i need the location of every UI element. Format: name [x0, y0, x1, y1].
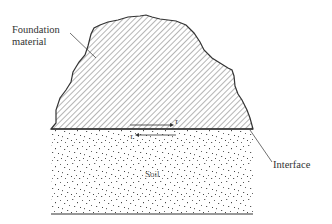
foundation-material-label: Foundation material [12, 24, 60, 48]
shear-stress-label-bottom: τ [130, 132, 133, 141]
interface-leader-line [250, 130, 272, 162]
interface-label: Interface [273, 159, 310, 171]
shear-stress-label-top: τ [175, 117, 178, 126]
foundation-label-line2: material [12, 36, 60, 48]
soil-label: Soil [145, 168, 160, 180]
foundation-material-shape [51, 15, 253, 129]
foundation-label-line1: Foundation [12, 24, 60, 36]
